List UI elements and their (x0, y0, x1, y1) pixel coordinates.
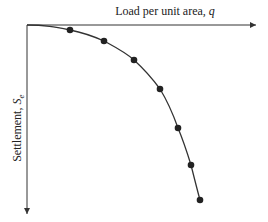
data-point (101, 38, 108, 45)
chart-plot (0, 0, 268, 222)
data-point (188, 162, 195, 169)
data-point (175, 125, 182, 132)
data-point (197, 197, 204, 204)
settlement-curve (27, 25, 200, 200)
data-point (67, 27, 74, 34)
data-markers (67, 27, 204, 204)
data-point (131, 57, 138, 64)
data-point (157, 86, 164, 93)
